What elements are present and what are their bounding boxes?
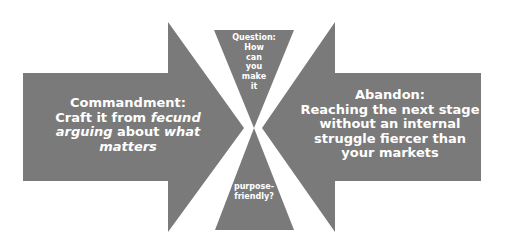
hourglass-bottom-text: purpose- friendly? [224,182,284,202]
question-line: How [224,43,284,53]
right-arrow-line: struggle fiercer than [300,132,480,147]
question-line: you [224,62,284,72]
hourglass-top-text: Question: How can you make it [224,33,284,92]
emphasis-run: fecund [151,110,201,125]
left-arrow-text: Commandment: Craft it from fecund arguin… [28,96,228,154]
left-arrow-title: Commandment: [28,96,228,111]
question-line: purpose- [224,182,284,192]
question-line: can [224,53,284,63]
right-arrow-title: Abandon: [300,88,480,103]
right-arrow-text: Abandon: Reaching the next stage without… [300,88,480,161]
right-arrow-line: Reaching the next stage [300,103,480,118]
text-run: about [112,124,164,139]
left-arrow-line-3: matters [28,140,228,155]
right-arrow-line: without an internal [300,117,480,132]
emphasis-run: what [164,124,200,139]
question-line: make [224,72,284,82]
text-run: Craft it from [55,110,150,125]
left-arrow-line-1: Craft it from fecund [28,111,228,126]
emphasis-run: matters [99,139,157,154]
left-arrow-line-2: arguing about what [28,125,228,140]
emphasis-run: arguing [56,124,113,139]
question-line: Question: [224,33,284,43]
question-line: friendly? [224,192,284,202]
right-arrow-line: your markets [300,146,480,161]
question-line: it [224,82,284,92]
